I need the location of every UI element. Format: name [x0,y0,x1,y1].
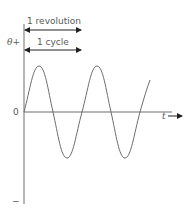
minus-label: − [12,196,20,206]
cycle-label: 1 cycle [37,37,69,47]
revolution-label: 1 revolution [27,16,81,26]
sine-wave-diagram: 1 revolution 1 cycle θ+ 0 t − [0,0,191,214]
origin-label: 0 [13,107,19,117]
theta-plus-label: θ+ [7,37,20,47]
t-label: t [162,111,166,121]
